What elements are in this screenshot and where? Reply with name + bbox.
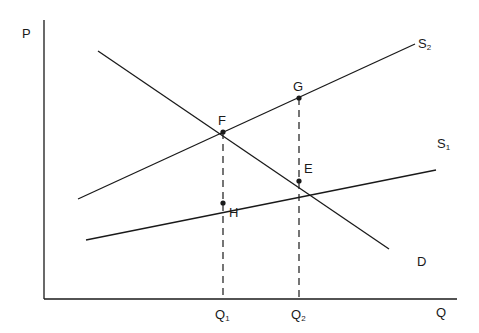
- point-label-e: E: [304, 162, 313, 175]
- tick-q1-base: Q: [215, 307, 225, 322]
- tick-label-q2: Q2: [291, 308, 306, 323]
- supply-curve-s2: [78, 44, 415, 199]
- tick-q2-base: Q: [291, 307, 301, 322]
- point-e: [296, 178, 301, 183]
- tick-q1-sub: 1: [225, 314, 229, 323]
- curve-label-d: D: [417, 255, 426, 268]
- point-label-f: F: [218, 114, 226, 127]
- diagram-canvas: [0, 0, 479, 333]
- point-label-h: H: [229, 206, 238, 219]
- tick-label-q1: Q1: [215, 308, 230, 323]
- point-g: [296, 95, 301, 100]
- s1-sub: 1: [446, 143, 450, 152]
- point-f: [220, 129, 225, 134]
- supply-demand-diagram: P Q Q1 Q2 S2 S1 D F E G H: [0, 0, 479, 333]
- curve-label-s2: S2: [418, 37, 431, 52]
- point-h: [220, 200, 225, 205]
- s2-base: S: [418, 36, 427, 51]
- s2-sub: 2: [427, 43, 431, 52]
- demand-curve-d: [98, 51, 389, 249]
- curve-label-s1: S1: [437, 137, 450, 152]
- tick-q2-sub: 2: [301, 314, 305, 323]
- s1-base: S: [437, 136, 446, 151]
- x-axis-label: Q: [436, 306, 446, 319]
- y-axis-label: P: [22, 27, 31, 40]
- supply-curve-s1: [86, 170, 436, 240]
- point-label-g: G: [293, 80, 303, 93]
